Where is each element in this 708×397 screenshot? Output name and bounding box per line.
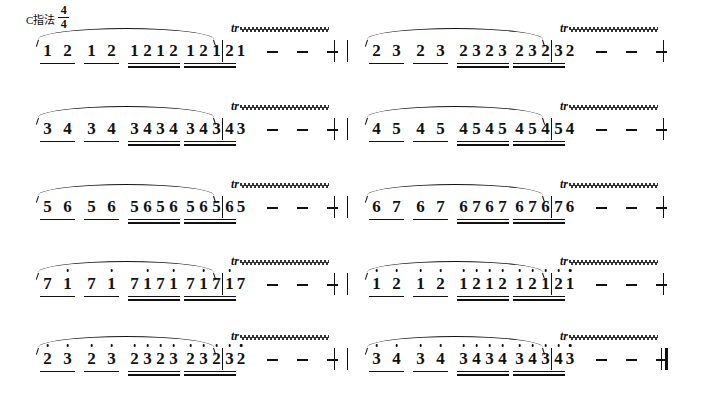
note-digit: 3 — [483, 350, 496, 368]
note: 1 — [167, 275, 180, 293]
beam-line — [369, 141, 404, 142]
note-digit: 6 — [457, 198, 470, 216]
beam-group: 67 — [413, 198, 448, 216]
note-digit: 2 — [470, 275, 483, 293]
beam-line — [128, 371, 180, 372]
measure-system: 565656565656tr5 — [26, 178, 326, 248]
measure: 121212121212 — [40, 42, 236, 60]
octave-dot-icon — [240, 344, 243, 347]
phrase-slur — [38, 106, 214, 120]
note: 5 — [389, 120, 404, 138]
note: 4 — [369, 120, 384, 138]
octave-dot-icon — [202, 269, 205, 272]
held-note: 3 — [234, 120, 248, 138]
note-digit: 3 — [496, 42, 509, 60]
measure-system: 232323232323tr2 — [26, 330, 326, 397]
octave-dot-icon — [133, 344, 136, 347]
trill-label: tr — [231, 179, 239, 189]
barline — [347, 273, 348, 295]
note: 2 — [496, 275, 509, 293]
beam-line — [40, 371, 75, 372]
note: 4 — [433, 350, 448, 368]
beam-group: 12 — [40, 42, 75, 60]
octave-dot-icon — [518, 269, 521, 272]
octave-dot-icon — [228, 269, 231, 272]
note: 1 — [84, 42, 99, 60]
note: 1 — [128, 42, 141, 60]
beam-line — [184, 299, 236, 300]
note: 2 — [413, 42, 428, 60]
barline — [347, 40, 348, 62]
note-digit: 4 — [197, 120, 210, 138]
beam-line — [369, 63, 404, 64]
phrase-slur — [367, 28, 543, 42]
duration-dash — [656, 51, 667, 53]
duration-dash — [327, 359, 338, 361]
note-digit: 4 — [433, 350, 448, 368]
note: 5 — [470, 120, 483, 138]
beam-group: 12 — [369, 275, 404, 293]
trill-wavy-line-icon — [240, 182, 329, 189]
note: 2 — [60, 42, 75, 60]
beam-group: 12 — [413, 275, 448, 293]
note-digit: 4 — [389, 350, 404, 368]
note: 3 — [84, 120, 99, 138]
note: 2 — [104, 42, 119, 60]
trill-marking: tr — [231, 330, 329, 344]
note-digit: 5 — [40, 198, 55, 216]
octave-dot-icon — [501, 344, 504, 347]
note: 2 — [470, 275, 483, 293]
phrase-slur — [367, 184, 543, 198]
held-note-group: 6 — [563, 198, 667, 216]
held-note: 2 — [563, 42, 577, 60]
note: 2 — [457, 42, 470, 60]
beam-line — [184, 63, 236, 64]
note: 2 — [141, 42, 154, 60]
beam-group: 5656 — [184, 198, 236, 216]
duration-dash — [267, 129, 278, 131]
octave-dot-icon — [544, 344, 547, 347]
trill-label: tr — [231, 256, 239, 266]
note-digit: 3 — [433, 42, 448, 60]
duration-dash — [656, 207, 667, 209]
note: 6 — [483, 198, 496, 216]
note-digit: 6 — [513, 198, 526, 216]
note: 3 — [526, 42, 539, 60]
barline — [663, 40, 664, 62]
note-digit: 6 — [563, 198, 577, 216]
note-digit: 6 — [167, 198, 180, 216]
note: 3 — [104, 350, 119, 368]
note: 7 — [389, 198, 404, 216]
beam-group: 34 — [413, 350, 448, 368]
beam-group: 56 — [84, 198, 119, 216]
beam-line — [184, 296, 236, 297]
phrase-slur — [367, 261, 543, 275]
trill-marking: tr — [560, 330, 658, 344]
note-digit: 2 — [154, 350, 167, 368]
note-digit: 2 — [84, 350, 99, 368]
beam-line — [84, 141, 119, 142]
beam-line — [128, 296, 180, 297]
measure-system: 121212121212tr1 — [355, 255, 655, 325]
note: 5 — [526, 120, 539, 138]
octave-dot-icon — [518, 344, 521, 347]
note-digit: 6 — [369, 198, 384, 216]
note: 2 — [128, 350, 141, 368]
beam-line — [513, 141, 565, 142]
note-digit: 4 — [483, 120, 496, 138]
octave-dot-icon — [501, 269, 504, 272]
note: 3 — [483, 350, 496, 368]
note-digit: 7 — [526, 198, 539, 216]
held-note: 1 — [563, 275, 577, 293]
note-digit: 7 — [40, 275, 55, 293]
beam-line — [457, 222, 509, 223]
note: 5 — [184, 198, 197, 216]
note: 5 — [128, 198, 141, 216]
octave-dot-icon — [375, 344, 378, 347]
duration-dash — [267, 359, 278, 361]
octave-dot-icon — [172, 344, 175, 347]
beam-line — [369, 219, 404, 220]
note: 4 — [167, 120, 180, 138]
note-digit: 3 — [369, 350, 384, 368]
note-digit: 3 — [197, 350, 210, 368]
